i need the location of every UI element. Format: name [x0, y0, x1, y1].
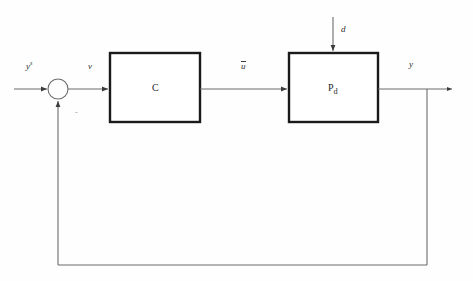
summing-junction-circle [48, 79, 68, 99]
plant-block-label-subscript: d [334, 87, 338, 96]
diagram-canvas: ys v u d y C Pd - [0, 0, 473, 281]
block-diagram-svg [0, 0, 473, 281]
output-signal-label: y [409, 60, 413, 69]
controller-block-label: C [152, 82, 159, 93]
error-signal-label: v [88, 62, 92, 71]
reference-signal-label: ys [26, 62, 32, 71]
reference-signal-superscript: s [30, 60, 32, 66]
control-signal-overbar-text: u [241, 61, 246, 71]
feedback-minus-sign-label: - [75, 108, 78, 117]
plant-block-label: Pd [328, 82, 338, 96]
disturbance-signal-label: d [341, 25, 346, 34]
